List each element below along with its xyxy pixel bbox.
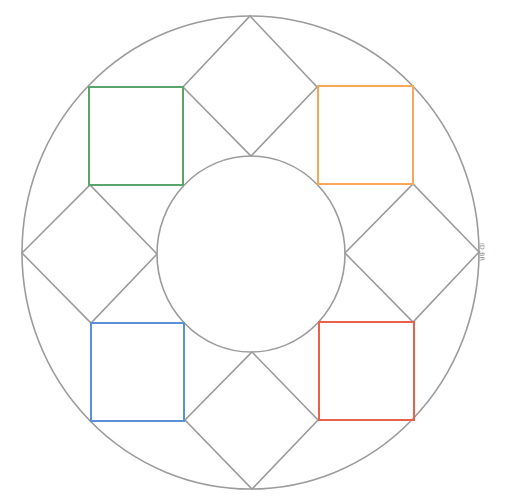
square-orange bbox=[318, 86, 413, 184]
inner-circle bbox=[157, 156, 345, 352]
diamond-bottom bbox=[185, 352, 318, 489]
diamond-top bbox=[183, 16, 317, 156]
credit-text: ID:BR bbox=[479, 243, 486, 261]
diamond-left bbox=[22, 185, 157, 323]
mandala-diagram bbox=[0, 0, 508, 504]
square-red bbox=[319, 322, 414, 420]
diamond-right bbox=[345, 184, 479, 322]
square-blue bbox=[91, 323, 184, 421]
square-green bbox=[89, 87, 183, 185]
